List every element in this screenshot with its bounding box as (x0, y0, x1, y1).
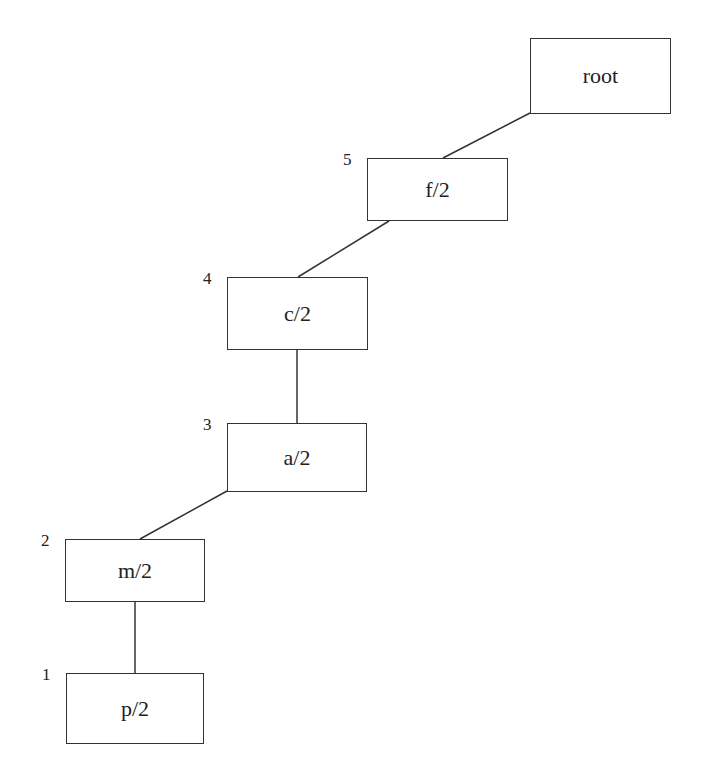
node-index-label: 5 (343, 150, 352, 170)
node-label: c/2 (284, 301, 311, 327)
node-index-label: 2 (41, 531, 50, 551)
node-m: m/2 (65, 539, 205, 602)
node-a: a/2 (227, 423, 367, 492)
edge-f-c (298, 221, 389, 277)
edge-root-f (443, 113, 530, 158)
node-label: a/2 (284, 445, 311, 471)
node-label: f/2 (425, 177, 449, 203)
node-f: f/2 (367, 158, 508, 221)
node-index-label: 1 (42, 665, 51, 685)
node-index-label: 3 (203, 415, 212, 435)
node-label: m/2 (118, 558, 152, 584)
node-p: p/2 (66, 673, 204, 744)
node-root: root (530, 38, 671, 114)
node-index-label: 4 (203, 269, 212, 289)
edge-a-m (140, 491, 227, 539)
node-label: p/2 (121, 696, 149, 722)
edge-layer (0, 0, 711, 780)
node-c: c/2 (227, 277, 368, 350)
node-label: root (583, 63, 618, 89)
